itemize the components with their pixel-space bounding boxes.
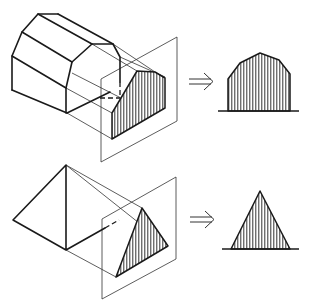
pyramid-body bbox=[13, 165, 119, 250]
double-arrow-right-icon bbox=[190, 211, 214, 228]
barn-body bbox=[12, 14, 120, 113]
double-arrow-right-icon bbox=[189, 73, 213, 90]
projection-diagram bbox=[0, 0, 311, 306]
pyramid-section-hatched bbox=[116, 208, 168, 277]
barn-solid bbox=[12, 14, 177, 162]
barn-front-view bbox=[218, 53, 299, 111]
pyramid-solid bbox=[13, 165, 176, 299]
projection-lines-bottom bbox=[66, 165, 168, 277]
pyramid-front-view bbox=[222, 191, 299, 249]
